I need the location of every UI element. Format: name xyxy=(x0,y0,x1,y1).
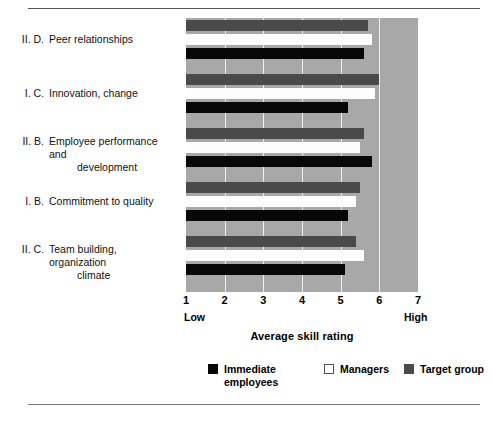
category-label-5: II. C.Team building, organizationclimate xyxy=(14,243,180,282)
x-tick-label-7: 7 xyxy=(415,294,421,306)
category-text-3: Employee performance anddevelopment xyxy=(49,135,175,174)
bar-managers-5 xyxy=(186,250,364,261)
legend-item-immediate-employees: Immediateemployees xyxy=(208,363,308,389)
x-axis-high-label: High xyxy=(404,311,427,323)
plot-area xyxy=(186,18,418,292)
bar-group-2 xyxy=(186,74,418,113)
x-tick-label-2: 2 xyxy=(222,294,228,306)
bottom-divider-rule xyxy=(28,404,480,405)
bar-group-5 xyxy=(186,236,418,275)
bar-immediate-employees-5 xyxy=(186,264,345,275)
bar-managers-4 xyxy=(186,196,356,207)
category-numeral-1: II. D. xyxy=(14,33,49,46)
category-text-5: Team building, organizationclimate xyxy=(49,243,175,282)
bar-immediate-employees-3 xyxy=(186,156,372,167)
legend-label-target-group: Target group xyxy=(420,363,484,376)
bar-target-group-3 xyxy=(186,128,364,139)
category-label-1: II. D.Peer relationships xyxy=(14,33,180,46)
bar-group-3 xyxy=(186,128,418,167)
category-label-4: I. B.Commitment to quality xyxy=(14,195,180,208)
legend-item-target-group: Target group xyxy=(404,363,492,376)
bar-immediate-employees-4 xyxy=(186,210,348,221)
category-numeral-4: I. B. xyxy=(14,195,49,208)
bar-managers-3 xyxy=(186,142,360,153)
legend-label-managers: Managers xyxy=(340,363,389,376)
bar-target-group-5 xyxy=(186,236,356,247)
bar-group-4 xyxy=(186,182,418,221)
bar-target-group-1 xyxy=(186,20,368,31)
x-tick-label-5: 5 xyxy=(338,294,344,306)
bar-immediate-employees-1 xyxy=(186,48,364,59)
bar-managers-1 xyxy=(186,34,372,45)
x-axis-tick-labels: 1234567 xyxy=(186,294,418,310)
x-tick-label-3: 3 xyxy=(260,294,266,306)
legend-swatch-icon-target xyxy=(404,364,414,374)
chart-legend: Immediateemployees Managers Target group xyxy=(186,363,476,403)
x-tick-label-1: 1 xyxy=(183,294,189,306)
category-numeral-2: I. C. xyxy=(14,87,49,100)
legend-label-immediate-line2: employees xyxy=(224,376,278,388)
x-axis-low-label: Low xyxy=(184,311,205,323)
category-text-5-line2: climate xyxy=(49,269,110,282)
top-divider-rule xyxy=(28,8,480,9)
bar-immediate-employees-2 xyxy=(186,102,348,113)
bar-chart: II. D.Peer relationshipsI. C.Innovation,… xyxy=(0,0,492,424)
category-text-3-line2: development xyxy=(49,161,137,174)
category-text-1: Peer relationships xyxy=(49,33,175,46)
category-numeral-5: II. C. xyxy=(14,243,49,256)
legend-swatch-icon-managers xyxy=(324,364,334,374)
legend-item-managers: Managers xyxy=(324,363,414,376)
gridline-7 xyxy=(418,18,419,292)
x-axis-title: Average skill rating xyxy=(186,330,418,342)
category-numeral-3: II. B. xyxy=(14,135,49,148)
bar-managers-2 xyxy=(186,88,375,99)
legend-label-immediate-line1: Immediate xyxy=(224,363,276,375)
bar-target-group-4 xyxy=(186,182,360,193)
legend-swatch-icon-immediate xyxy=(208,364,218,374)
category-label-2: I. C.Innovation, change xyxy=(14,87,180,100)
category-text-4: Commitment to quality xyxy=(49,195,175,208)
category-text-2: Innovation, change xyxy=(49,87,175,100)
category-label-3: II. B.Employee performance anddevelopmen… xyxy=(14,135,180,174)
x-tick-label-6: 6 xyxy=(376,294,382,306)
bar-target-group-2 xyxy=(186,74,379,85)
bar-group-1 xyxy=(186,20,418,59)
x-tick-label-4: 4 xyxy=(299,294,305,306)
